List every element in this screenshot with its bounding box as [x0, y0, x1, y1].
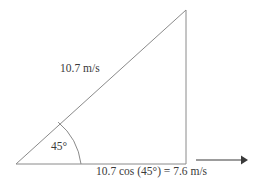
vector-triangle-diagram: 10.7 m/s 45° 10.7 cos (45°) = 7.6 m/s — [0, 0, 255, 189]
horizontal-component-label: 10.7 cos (45°) = 7.6 m/s — [96, 166, 207, 178]
arrow-right-icon — [196, 156, 248, 165]
hypotenuse-label: 10.7 m/s — [60, 63, 100, 75]
triangle-figure — [0, 0, 255, 189]
hypotenuse-line — [16, 10, 186, 164]
arrow-head — [241, 156, 248, 165]
angle-label: 45° — [51, 141, 67, 153]
